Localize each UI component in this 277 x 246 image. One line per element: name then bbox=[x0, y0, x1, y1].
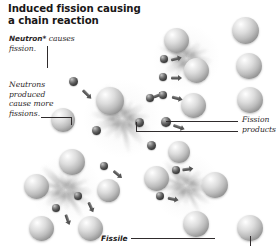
label-neutron-rest-2: fission. bbox=[9, 44, 36, 53]
arrow-head bbox=[178, 75, 182, 81]
nucleus-sphere bbox=[97, 179, 120, 202]
nucleus-sphere bbox=[237, 87, 263, 113]
figure-title-line-2: a chain reaction bbox=[8, 15, 99, 26]
nucleus-sphere bbox=[183, 211, 209, 237]
neutron-sphere bbox=[74, 192, 82, 200]
label-fissile: Fissile bbox=[101, 234, 127, 243]
nucleus-sphere bbox=[96, 87, 124, 115]
motion-arrow bbox=[167, 194, 180, 204]
motion-arrow bbox=[85, 201, 97, 215]
label-neutrons-produced-line-3: cause more bbox=[9, 99, 53, 108]
neutron-sphere bbox=[52, 204, 60, 212]
arrow-head bbox=[177, 54, 182, 61]
leader-fission-products-lower bbox=[136, 131, 238, 132]
nucleus-sphere bbox=[144, 166, 169, 191]
neutron-sphere bbox=[172, 166, 180, 174]
arrow-head bbox=[174, 197, 179, 204]
neutron-sphere bbox=[100, 162, 108, 170]
neutron-sphere bbox=[160, 55, 168, 63]
neutron-sphere bbox=[147, 141, 156, 150]
label-neutron: Neutron* causes fission. bbox=[9, 34, 109, 53]
motion-arrow bbox=[62, 213, 74, 227]
neutron-sphere bbox=[161, 117, 171, 127]
label-neutrons-produced: Neutrons produced cause more fissions. bbox=[9, 80, 71, 118]
label-neutron-term: Neutron* bbox=[9, 34, 46, 43]
leader-fission-products-upper bbox=[166, 121, 238, 122]
nucleus-sphere bbox=[236, 53, 262, 79]
motion-arrow bbox=[182, 164, 195, 174]
neutron-sphere bbox=[92, 126, 101, 135]
leader-fissile-drop bbox=[250, 236, 251, 246]
label-neutrons-produced-line-4: fissions. bbox=[9, 109, 40, 118]
label-fission-products-line-1: Fission bbox=[242, 115, 269, 124]
leader-fissile bbox=[131, 238, 215, 239]
motion-arrow bbox=[170, 53, 184, 64]
arrow-head bbox=[65, 221, 72, 227]
label-neutrons-produced-line-2: produced bbox=[9, 90, 45, 99]
label-neutrons-produced-line-1: Neutrons bbox=[9, 80, 45, 89]
figure-title-line-1: Induced fission causing bbox=[8, 3, 141, 14]
neutron-sphere bbox=[146, 94, 154, 102]
figure-canvas: Induced fission causing a chain reaction… bbox=[0, 0, 277, 246]
motion-arrow bbox=[80, 87, 95, 102]
motion-arrow bbox=[171, 93, 185, 104]
motion-arrow bbox=[171, 74, 183, 82]
neutron-sphere bbox=[159, 73, 167, 81]
figure-title: Induced fission causing a chain reaction bbox=[8, 3, 178, 28]
nucleus-sphere bbox=[232, 17, 259, 44]
arrow-head bbox=[89, 208, 96, 214]
arrow-head bbox=[178, 96, 183, 103]
neutron-sphere bbox=[159, 91, 167, 99]
nucleus-sphere bbox=[59, 149, 85, 175]
leader-fission-products-riser bbox=[136, 122, 137, 131]
label-fission-products: Fission products bbox=[242, 115, 277, 134]
nucleus-sphere bbox=[164, 28, 189, 53]
arrow-head bbox=[189, 165, 194, 171]
nucleus-sphere bbox=[78, 216, 103, 241]
neutron-sphere bbox=[156, 192, 164, 200]
nucleus-sphere bbox=[168, 141, 190, 163]
label-fission-products-line-2: products bbox=[242, 125, 276, 134]
nucleus-sphere bbox=[184, 58, 209, 83]
nucleus-sphere bbox=[24, 174, 49, 199]
nucleus-sphere bbox=[29, 216, 54, 241]
nucleus-sphere bbox=[202, 172, 228, 198]
label-neutron-rest-1: causes bbox=[46, 34, 74, 43]
